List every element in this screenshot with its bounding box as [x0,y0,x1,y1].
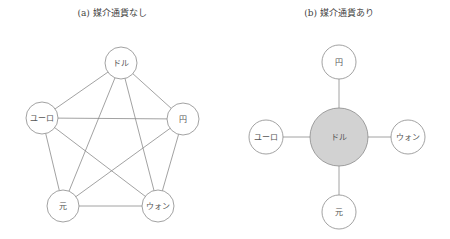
node-label: 元 [335,208,343,217]
node-yuan: 元 [322,195,356,229]
node-label: 円 [179,115,187,124]
panel-a-graph: ドル ユーロ 円 元 ウォン [26,47,199,222]
node-label: 元 [59,202,67,211]
node-label: ウォン [396,133,420,142]
node-won: ウォン [391,120,425,154]
node-yen: 円 [167,103,199,135]
node-label: 円 [335,58,343,67]
edge-dollar-won [121,63,158,206]
node-hub-dollar: ドル [310,108,368,166]
node-label: ドル [331,133,347,142]
node-dollar: ドル [105,47,137,79]
edge-euro-yen [42,118,183,119]
node-label: ウォン [146,202,170,211]
node-euro: ユーロ [249,120,283,154]
node-euro: ユーロ [26,102,58,134]
node-label: ユーロ [30,114,54,123]
currency-network-diagram: ドル ユーロ 円 元 ウォン ドル 円 [0,0,450,239]
panel-b-graph: ドル 円 ユーロ ウォン 元 [249,45,425,229]
node-label: ユーロ [254,133,278,142]
node-yen: 円 [322,45,356,79]
node-label: ドル [113,59,129,68]
node-yuan: 元 [47,190,79,222]
node-won: ウォン [142,190,174,222]
